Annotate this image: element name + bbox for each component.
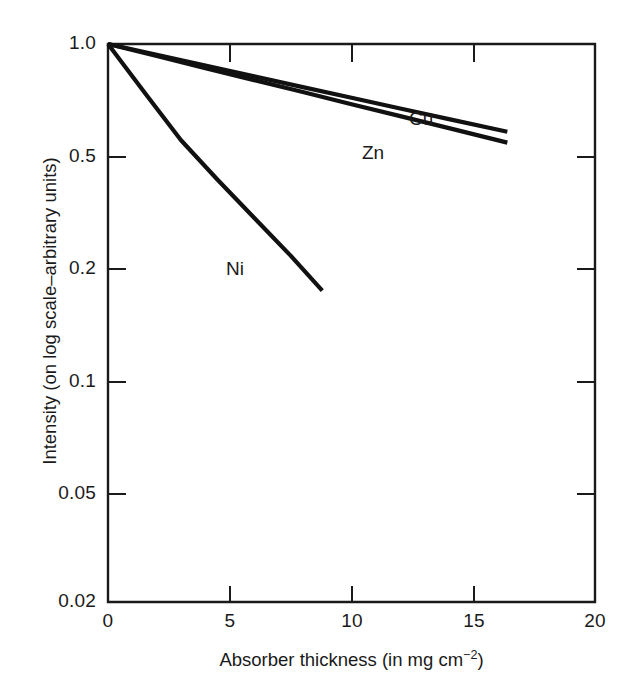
y-tick-label-6: 0.02 xyxy=(20,590,96,612)
x-axis-title-main: Absorber thickness (in mg cm xyxy=(219,649,463,670)
x-tick-label-3: 10 xyxy=(332,610,372,632)
x-tick-label-2: 5 xyxy=(210,610,250,632)
chart-canvas xyxy=(0,0,635,690)
x-tick-label-5: 20 xyxy=(575,610,615,632)
series-annotation-cu: Cu xyxy=(409,108,433,130)
x-axis-ticks xyxy=(230,44,474,602)
series-line-zn xyxy=(108,44,507,143)
x-tick-label-1: 0 xyxy=(88,610,128,632)
y-axis-title: Intensity (on log scale–arbitrary units) xyxy=(39,101,61,521)
series-annotation-zn: Zn xyxy=(362,142,384,164)
x-axis-title-tail: ) xyxy=(477,649,483,670)
plot-frame xyxy=(108,44,595,602)
x-tick-label-4: 15 xyxy=(454,610,494,632)
figure-container: 1.0 0.5 0.2 0.1 0.05 0.02 0 5 10 15 20 C… xyxy=(0,0,635,690)
x-axis-title: Absorber thickness (in mg cm−2) xyxy=(108,648,595,671)
y-axis-ticks xyxy=(108,157,595,494)
data-series-group xyxy=(108,44,507,291)
series-line-ni xyxy=(108,44,322,291)
series-annotation-ni: Ni xyxy=(226,258,244,280)
y-tick-label-1: 1.0 xyxy=(28,32,96,54)
x-axis-title-exponent: −2 xyxy=(463,648,477,662)
